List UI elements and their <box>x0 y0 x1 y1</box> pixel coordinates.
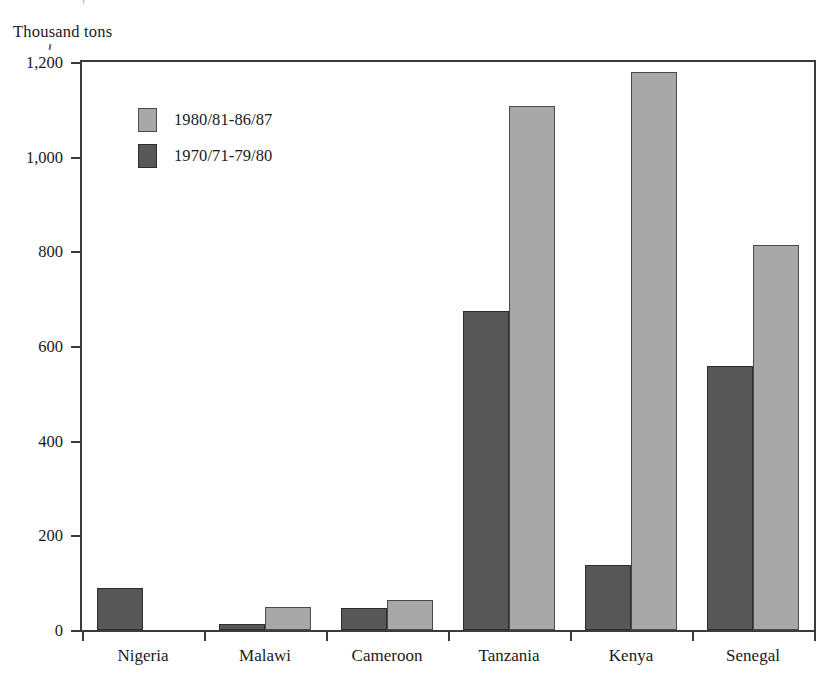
x-axis-category-label: Tanzania <box>478 646 539 666</box>
bar-1970-malawi <box>219 624 265 630</box>
x-axis-tick <box>82 630 84 641</box>
y-axis-tick-label: 1,200 <box>26 53 63 73</box>
bar-1980-malawi <box>265 607 311 630</box>
x-axis-tick <box>448 630 450 641</box>
y-axis-tick-label: 600 <box>38 337 63 357</box>
bar-chart: ' Thousand tons 02004006008001,0001,200 … <box>0 0 835 677</box>
legend-swatch-dark-icon <box>138 144 157 168</box>
x-axis-category-label: Cameroon <box>352 646 423 666</box>
y-axis-tick-label: 200 <box>38 526 63 546</box>
bar-1980-senegal <box>753 245 799 630</box>
scan-artifact: ' <box>82 0 96 12</box>
plot-area: 02004006008001,0001,200 NigeriaMalawiCam… <box>80 60 816 632</box>
y-axis-tick-label: 400 <box>38 432 63 452</box>
y-axis-tick-label: 800 <box>38 242 63 262</box>
x-axis-tick <box>570 630 572 641</box>
bar-1970-nigeria <box>97 588 143 630</box>
y-axis-tick: 400 <box>71 441 82 443</box>
y-axis-tick: 1,200 <box>71 62 82 64</box>
legend-swatch-light-icon <box>138 108 157 132</box>
legend-item-1970: 1970/71-79/80 <box>138 141 272 171</box>
x-axis-category-label: Kenya <box>609 646 653 666</box>
bar-1970-cameroon <box>341 608 387 630</box>
x-axis-category-label: Nigeria <box>118 646 169 666</box>
x-axis-tick <box>204 630 206 641</box>
y-axis-tick: 600 <box>71 346 82 348</box>
bar-1970-kenya <box>585 565 631 630</box>
legend: 1980/81-86/87 1970/71-79/80 <box>138 105 272 177</box>
bar-1980-cameroon <box>387 600 433 630</box>
x-axis-category-label: Senegal <box>726 646 780 666</box>
y-axis-tick: 800 <box>71 251 82 253</box>
bar-1970-senegal <box>707 366 753 630</box>
y-axis-tick: 1,000 <box>71 157 82 159</box>
y-axis-unit-label: Thousand tons <box>13 22 112 42</box>
x-axis-tick <box>326 630 328 641</box>
legend-item-1980: 1980/81-86/87 <box>138 105 272 135</box>
bar-1970-tanzania <box>463 311 509 630</box>
bar-1980-kenya <box>631 72 677 630</box>
x-axis-tick <box>814 630 816 641</box>
x-axis-category-label: Malawi <box>239 646 291 666</box>
legend-label-1980: 1980/81-86/87 <box>174 110 272 130</box>
scan-speck <box>49 44 52 50</box>
y-axis-tick-label: 0 <box>55 621 63 641</box>
bar-1980-tanzania <box>509 106 555 630</box>
y-axis-tick: 0 <box>71 630 82 632</box>
legend-label-1970: 1970/71-79/80 <box>174 146 272 166</box>
y-axis-tick: 200 <box>71 535 82 537</box>
x-axis-tick <box>692 630 694 641</box>
y-axis-tick-label: 1,000 <box>26 148 63 168</box>
